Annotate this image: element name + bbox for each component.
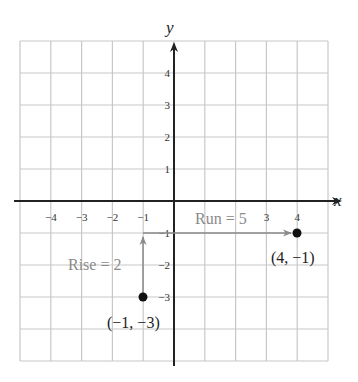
point-label-neg1-neg3: (−1, −3) (107, 314, 160, 332)
y-tick-label: −2 (158, 259, 170, 271)
y-axis-label: y (164, 18, 174, 37)
coordinate-plane: x y −4−3−2−134 4321−1−2−3 Rise = 2 Run =… (0, 0, 358, 382)
y-tick-label: 2 (165, 131, 171, 143)
x-tick-labels: −4−3−2−134 (45, 211, 301, 223)
y-tick-label: −3 (158, 291, 170, 303)
run-label: Run = 5 (195, 210, 247, 227)
x-tick-label: −2 (107, 211, 119, 223)
point-4-neg1 (293, 229, 302, 238)
x-tick-label: −4 (45, 211, 57, 223)
x-tick-label: 4 (294, 211, 300, 223)
x-tick-label: −1 (137, 211, 149, 223)
point-label-4-neg1: (4, −1) (271, 249, 315, 267)
x-tick-label: 3 (264, 211, 270, 223)
point-neg1-neg3 (139, 293, 148, 302)
y-tick-label: 1 (165, 163, 171, 175)
y-tick-label: 3 (165, 99, 171, 111)
rise-label: Rise = 2 (68, 256, 121, 273)
x-tick-label: −3 (76, 211, 88, 223)
y-tick-labels: 4321−1−2−3 (158, 67, 170, 303)
y-tick-label: 4 (165, 67, 171, 79)
x-axis-label: x (333, 191, 342, 210)
